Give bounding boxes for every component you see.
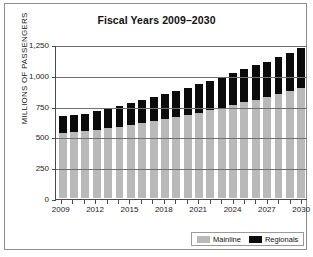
bar-segment-mainline [150, 121, 158, 198]
x-tick-mark [84, 200, 85, 204]
bar-stack [150, 46, 158, 198]
bar-segment-regionals [116, 106, 124, 127]
bar-column[interactable] [182, 46, 193, 198]
gridline [56, 77, 307, 78]
x-tick-mark [210, 200, 211, 204]
bar-segment-mainline [218, 108, 226, 198]
bar-column[interactable] [205, 46, 216, 198]
bar-stack [138, 46, 146, 198]
bar-segment-regionals [81, 114, 89, 131]
bar-segment-mainline [263, 97, 271, 198]
x-tick-mark [107, 200, 108, 204]
bar-segment-mainline [161, 119, 169, 198]
y-tick-label: 500 [5, 133, 49, 142]
bar-segment-regionals [275, 57, 283, 94]
bar-column[interactable] [261, 46, 272, 198]
legend-entry[interactable]: Mainline [197, 235, 241, 244]
bar-column[interactable] [114, 46, 125, 198]
bar-segment-regionals [240, 69, 248, 102]
x-tick-label: 2012 [80, 205, 110, 214]
bar-stack [93, 46, 101, 198]
bar-stack [206, 46, 214, 198]
x-tick-label: 2024 [218, 205, 248, 214]
y-tick-label: 250 [5, 164, 49, 173]
bar-column[interactable] [171, 46, 182, 198]
bar-segment-mainline [93, 130, 101, 198]
bar-segment-regionals [252, 65, 260, 99]
bar-series-container [57, 46, 307, 198]
x-tick-mark [118, 200, 119, 204]
bar-segment-regionals [297, 48, 305, 89]
bar-stack [127, 46, 135, 198]
bar-segment-regionals [184, 88, 192, 115]
bar-segment-mainline [195, 113, 203, 199]
bar-column[interactable] [68, 46, 79, 198]
bar-segment-mainline [70, 132, 78, 198]
bar-column[interactable] [102, 46, 113, 198]
bar-segment-regionals [70, 115, 78, 132]
chart-legend: MainlineRegionals [191, 232, 304, 246]
x-tick-mark [198, 200, 199, 204]
bar-segment-regionals [93, 111, 101, 130]
x-tick-label: 2015 [114, 205, 144, 214]
y-tick-mark [52, 138, 56, 139]
bar-stack [70, 46, 78, 198]
bar-stack [184, 46, 192, 198]
bar-segment-regionals [150, 97, 158, 121]
y-tick-mark [52, 108, 56, 109]
bar-stack [229, 46, 237, 198]
bar-segment-mainline [138, 123, 146, 198]
bar-column[interactable] [227, 46, 238, 198]
x-tick-mark [221, 200, 222, 204]
bar-column[interactable] [296, 46, 307, 198]
bar-segment-regionals [104, 108, 112, 128]
x-tick-mark [164, 200, 165, 204]
x-tick-mark [301, 200, 302, 204]
bar-column[interactable] [91, 46, 102, 198]
bar-segment-mainline [229, 105, 237, 198]
x-tick-mark [175, 200, 176, 204]
gridline [56, 108, 307, 109]
bar-stack [252, 46, 260, 198]
bar-stack [240, 46, 248, 198]
bar-segment-mainline [59, 133, 67, 198]
y-tick-label: 750 [5, 103, 49, 112]
bar-column[interactable] [193, 46, 204, 198]
bar-segment-regionals [286, 53, 294, 91]
bar-stack [81, 46, 89, 198]
bar-column[interactable] [159, 46, 170, 198]
chart-figure: Fiscal Years 2009–2030 MILLIONS OF PASSE… [0, 0, 313, 257]
legend-entry[interactable]: Regionals [249, 235, 298, 244]
bar-column[interactable] [125, 46, 136, 198]
bar-column[interactable] [239, 46, 250, 198]
y-tick-mark [52, 46, 56, 47]
legend-label: Mainline [213, 235, 241, 244]
bar-segment-regionals [206, 81, 214, 110]
chart-frame: Fiscal Years 2009–2030 MILLIONS OF PASSE… [4, 3, 307, 250]
y-tick-mark [52, 77, 56, 78]
bar-segment-mainline [297, 88, 305, 198]
gridline [56, 46, 307, 47]
chart-title: Fiscal Years 2009–2030 [5, 14, 308, 26]
legend-swatch [249, 236, 262, 243]
y-tick-mark [52, 169, 56, 170]
bar-segment-mainline [127, 125, 135, 198]
bar-column[interactable] [284, 46, 295, 198]
bar-stack [172, 46, 180, 198]
legend-swatch [197, 236, 210, 243]
bar-segment-mainline [252, 100, 260, 198]
bar-stack [263, 46, 271, 198]
bar-column[interactable] [137, 46, 148, 198]
bar-column[interactable] [250, 46, 261, 198]
bar-column[interactable] [80, 46, 91, 198]
bar-stack [195, 46, 203, 198]
x-tick-mark [61, 200, 62, 204]
bar-column[interactable] [148, 46, 159, 198]
bar-stack [297, 46, 305, 198]
bar-segment-mainline [172, 117, 180, 198]
x-tick-label: 2021 [183, 205, 213, 214]
bar-column[interactable] [57, 46, 68, 198]
bar-column[interactable] [216, 46, 227, 198]
bar-stack [286, 46, 294, 198]
bar-column[interactable] [273, 46, 284, 198]
